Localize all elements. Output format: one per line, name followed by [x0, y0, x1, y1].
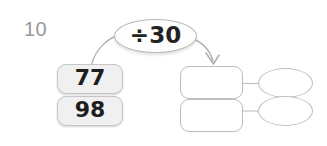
input-box-2: 98: [57, 96, 123, 126]
input-box-1: 77: [57, 64, 123, 94]
input-value-2: 98: [75, 99, 106, 121]
answer-box-2[interactable]: [180, 99, 243, 132]
input-value-1: 77: [75, 67, 106, 89]
answer-oval-1[interactable]: [258, 68, 313, 98]
operation-label: ÷30: [130, 24, 181, 47]
question-number: 10: [24, 19, 47, 39]
answer-oval-2[interactable]: [258, 96, 313, 126]
operation-bubble: ÷30: [114, 19, 197, 53]
arrowhead-icon: [206, 53, 219, 64]
answer-box-1[interactable]: [180, 66, 243, 99]
worksheet-canvas: 10 ÷30 77 98: [0, 0, 327, 146]
